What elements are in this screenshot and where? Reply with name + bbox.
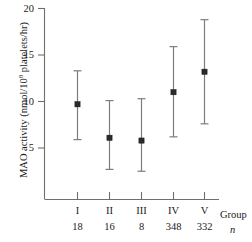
x-tick-label-n-I: 18 <box>61 221 95 233</box>
data-point-marker <box>107 135 112 140</box>
x-tick-label-n-V: 332 <box>188 221 222 233</box>
errorbar-point-III <box>138 99 146 172</box>
x-tick-label-group-II: II <box>93 205 127 217</box>
data-point-marker <box>139 138 144 143</box>
errorbar-point-II <box>106 101 114 170</box>
x-axis-caption-group: Group <box>220 209 247 220</box>
x-axis-caption-n: n <box>230 224 235 235</box>
x-tick-label-n-IV: 348 <box>157 221 191 233</box>
x-tick-label-n-II: 16 <box>93 221 127 233</box>
errorbar-point-I <box>74 71 82 140</box>
x-tick-label-n-III: 8 <box>125 221 159 233</box>
x-axis <box>45 192 220 200</box>
errorbar-point-IV <box>170 47 178 137</box>
y-axis <box>38 8 45 199</box>
chart-figure: 20 15 10 5 MAO activity (nmol/108 platel… <box>0 0 252 242</box>
data-point-marker <box>202 69 207 74</box>
errorbar-point-V <box>201 20 209 124</box>
data-point-marker <box>171 90 176 95</box>
y-axis-label: MAO activity (nmol/108 platelets/hr) <box>13 5 29 195</box>
y-axis-label-text: MAO activity (nmol/108 platelets/hr) <box>18 22 29 178</box>
x-tick-label-group-III: III <box>125 205 159 217</box>
data-point-marker <box>75 102 80 107</box>
x-tick-label-group-V: V <box>188 205 222 217</box>
x-tick-label-group-IV: IV <box>157 205 191 217</box>
data-series <box>74 20 209 172</box>
x-tick-label-group-I: I <box>61 205 95 217</box>
